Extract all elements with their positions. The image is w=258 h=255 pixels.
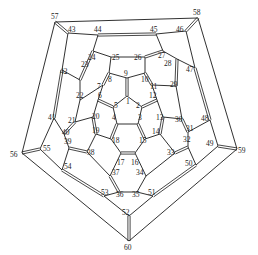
single-bond-edge <box>186 31 195 68</box>
double-bond-edge <box>187 19 199 32</box>
vertex-label: 4 <box>112 113 116 122</box>
vertex-label: 35 <box>132 190 140 199</box>
vertex-label: 59 <box>238 146 246 155</box>
vertex-label: 48 <box>201 114 209 123</box>
vertex-labels-layer: 1234567891011121314151617181920212223242… <box>10 8 246 252</box>
single-bond-edge <box>75 100 80 122</box>
vertex-label: 49 <box>206 139 214 148</box>
double-bond-edge <box>56 21 69 32</box>
vertex-label: 44 <box>94 25 102 34</box>
vertex-label: 56 <box>10 150 18 159</box>
vertex-label: 60 <box>124 243 132 252</box>
vertex-label: 7 <box>97 82 101 91</box>
vertex-label: 22 <box>76 91 84 100</box>
single-bond-edge <box>62 33 68 70</box>
double-bond-edge <box>154 166 197 197</box>
vertex-label: 40 <box>62 128 70 137</box>
vertex-label: 21 <box>68 116 76 125</box>
vertex-label: 2 <box>136 101 140 110</box>
vertex-label: 26 <box>134 53 142 62</box>
vertex-label: 12 <box>149 91 157 100</box>
vertex-label: 51 <box>148 188 156 197</box>
vertex-label: 42 <box>60 67 68 76</box>
double-bond-edge <box>22 150 40 154</box>
double-bond-edge <box>69 147 87 151</box>
single-bond-edge <box>22 22 55 153</box>
single-bond-edge <box>196 146 218 165</box>
single-bond-edge <box>75 117 93 122</box>
double-bond-edge <box>55 70 63 118</box>
double-bond-edge <box>61 171 103 197</box>
vertex-label: 57 <box>51 12 59 21</box>
vertex-label: 32 <box>183 135 191 144</box>
vertex-label: 17 <box>117 158 125 167</box>
vertex-label: 38 <box>87 148 95 157</box>
single-bond-edge <box>129 196 153 216</box>
vertex-label: 55 <box>43 144 51 153</box>
double-bond-edge <box>98 35 156 36</box>
vertex-label: 36 <box>116 190 124 199</box>
vertex-label: 11 <box>150 82 157 91</box>
vertex-label: 31 <box>186 124 194 133</box>
double-bond-edge <box>53 70 61 118</box>
vertex-label: 8 <box>108 75 112 84</box>
vertex-label: 25 <box>112 53 120 62</box>
vertex-label: 19 <box>92 126 100 135</box>
vertex-label: 18 <box>112 136 120 145</box>
c60-schlegel-diagram: 1234567891011121314151617181920212223242… <box>0 0 258 255</box>
single-bond-edge <box>109 57 111 73</box>
vertex-label: 47 <box>186 65 194 74</box>
single-bond-edge <box>156 34 163 51</box>
vertex-label: 46 <box>176 25 184 34</box>
single-bond-edge <box>129 149 237 241</box>
vertex-label: 3 <box>138 113 142 122</box>
double-bond-edge <box>69 149 87 153</box>
vertex-label: 5 <box>114 101 118 110</box>
vertex-label: 37 <box>112 168 120 177</box>
double-bond-edge <box>185 17 197 30</box>
vertex-label: 33 <box>167 148 175 157</box>
double-bond-edge <box>194 68 209 120</box>
single-bond-edge <box>198 18 237 149</box>
double-bond-edge <box>98 33 156 34</box>
vertex-label: 53 <box>101 188 109 197</box>
vertex-label: 15 <box>139 136 147 145</box>
single-bond-edge <box>22 153 129 241</box>
vertex-label: 54 <box>64 162 72 171</box>
vertex-label: 39 <box>64 137 72 146</box>
vertex-label: 30 <box>175 115 183 124</box>
vertex-label: 24 <box>88 53 96 62</box>
vertex-label: 45 <box>150 25 158 34</box>
single-bond-edge <box>55 18 198 22</box>
vertex-label: 28 <box>164 59 172 68</box>
double-bond-edge <box>196 68 211 120</box>
vertex-label: 58 <box>193 8 201 17</box>
single-bond-edge <box>93 35 98 51</box>
vertex-label: 41 <box>48 113 56 122</box>
single-bond-edge <box>93 51 111 57</box>
vertex-label: 1 <box>126 97 130 106</box>
vertex-label: 52 <box>122 208 130 217</box>
vertex-label: 14 <box>152 127 160 136</box>
vertex-label: 6 <box>98 91 102 100</box>
vertex-label: 16 <box>131 158 139 167</box>
double-bond-edge <box>54 23 67 34</box>
vertex-label: 10 <box>141 75 149 84</box>
double-bond-edge <box>22 148 40 152</box>
vertex-label: 43 <box>68 25 76 34</box>
vertex-label: 29 <box>170 80 178 89</box>
vertex-label: 9 <box>124 69 128 78</box>
vertex-label: 50 <box>185 159 193 168</box>
vertex-label: 20 <box>92 112 100 121</box>
vertex-label: 13 <box>156 113 164 122</box>
vertex-label: 34 <box>136 168 144 177</box>
